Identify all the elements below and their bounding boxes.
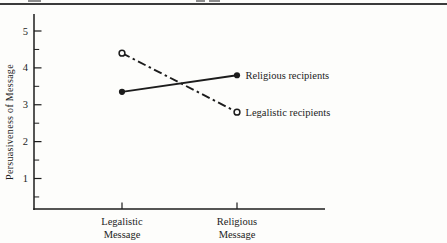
y-tick-label: 1 <box>23 173 28 184</box>
x-category-label: ReligiousMessage <box>217 216 257 240</box>
series-lines: Religious recipientsLegalistic recipient… <box>119 50 330 118</box>
marker-filled-circle <box>119 89 125 95</box>
series-label: Religious recipients <box>246 70 330 81</box>
series-label: Legalistic recipients <box>246 107 331 118</box>
x-category-label: LegalisticMessage <box>101 216 143 240</box>
y-tick-label: 2 <box>23 136 28 147</box>
y-axis-title: Persuasiveness of Message <box>4 64 15 180</box>
line-chart: 54321 LegalisticMessageReligiousMessage … <box>0 0 447 243</box>
marker-open-circle <box>234 109 240 115</box>
y-ticks: 54321 <box>23 26 42 197</box>
y-tick-label: 3 <box>23 99 28 110</box>
x-ticks: LegalisticMessageReligiousMessage <box>101 203 257 240</box>
series-line-solid <box>122 75 237 92</box>
figure: 54321 LegalisticMessageReligiousMessage … <box>0 0 447 243</box>
marker-filled-circle <box>234 72 240 78</box>
y-tick-label: 5 <box>23 26 28 37</box>
y-tick-label: 4 <box>23 62 29 73</box>
marker-open-circle <box>119 50 125 56</box>
